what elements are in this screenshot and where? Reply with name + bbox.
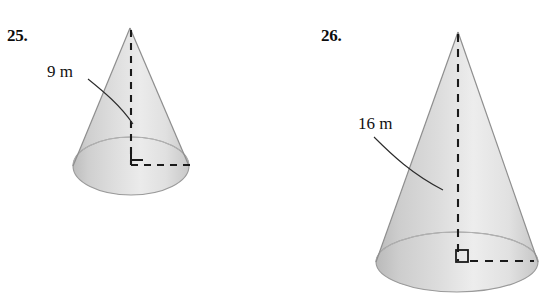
cone-25 <box>73 28 196 195</box>
cone-figures-svg <box>0 0 545 302</box>
cone-26 <box>374 32 538 292</box>
figure-page: 25. 9 m 4 m 26. 16 m 5 m <box>0 0 545 302</box>
